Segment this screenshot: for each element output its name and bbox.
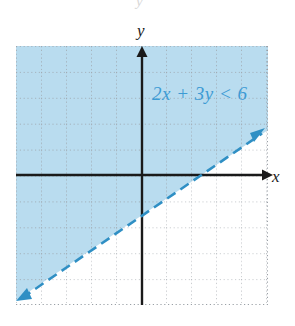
inequality-graph-figure: y	[0, 0, 295, 326]
x-axis-label: x	[272, 168, 280, 185]
inequality-annotation-label: 2x + 3y < 6	[152, 84, 248, 103]
y-axis-label: y	[137, 22, 145, 39]
coordinate-plane-svg	[0, 0, 295, 326]
